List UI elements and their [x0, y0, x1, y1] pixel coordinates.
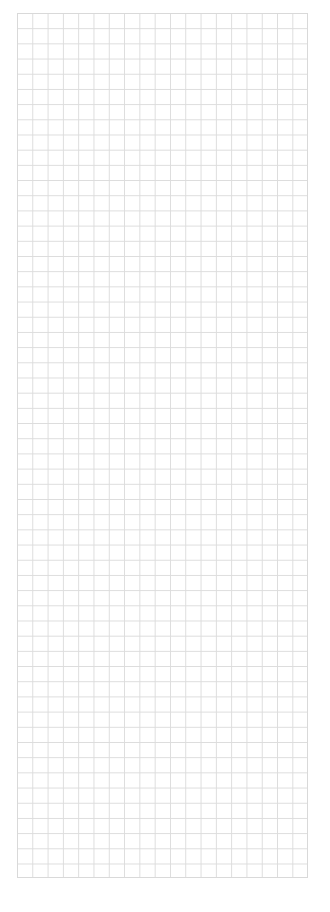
- graph-paper-grid: [17, 13, 308, 878]
